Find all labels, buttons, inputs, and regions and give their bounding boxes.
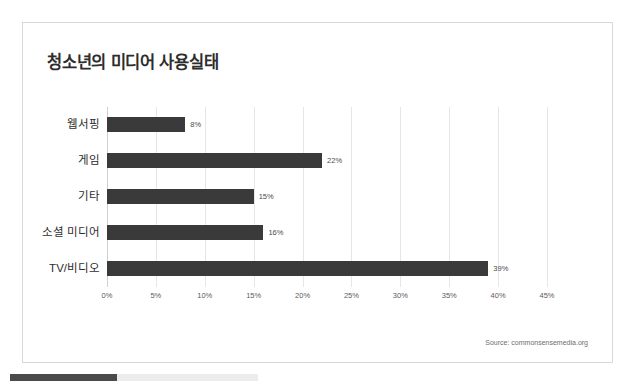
x-axis-tick-label: 5% [150, 291, 161, 300]
category-label: TV/비디오 [49, 261, 100, 276]
bar-value-label: 39% [493, 262, 508, 275]
x-axis-tick-label: 25% [344, 291, 359, 300]
chart-bar-row: 웹서핑8% [107, 107, 547, 143]
x-axis-tick-label: 40% [491, 291, 506, 300]
bar-value-label: 16% [268, 226, 283, 239]
x-axis-tick-label: 35% [442, 291, 457, 300]
x-axis-tick-label: 0% [102, 291, 113, 300]
category-label: 게임 [78, 153, 100, 168]
chart-plot-area: 웹서핑8%게임22%기타15%소셜 미디어16%TV/비디오39% [107, 107, 547, 287]
chart-bar[interactable] [107, 117, 185, 132]
gridline [547, 107, 548, 287]
x-axis-tick-label: 10% [197, 291, 212, 300]
chart-bar-row: 게임22% [107, 143, 547, 179]
chart-bar[interactable] [107, 225, 263, 240]
chart-bar[interactable] [107, 261, 488, 276]
chart-bar[interactable] [107, 189, 254, 204]
chart-bar-row: TV/비디오39% [107, 251, 547, 287]
x-axis-tick-label: 15% [246, 291, 261, 300]
horizontal-scrollbar[interactable] [10, 374, 258, 381]
horizontal-scrollbar-thumb[interactable] [10, 374, 117, 381]
chart-bar[interactable] [107, 153, 322, 168]
chart-bar-row: 기타15% [107, 179, 547, 215]
bar-value-label: 22% [327, 154, 342, 167]
x-axis-tick-label: 30% [393, 291, 408, 300]
bar-value-label: 15% [259, 190, 274, 203]
bar-value-label: 8% [190, 118, 201, 131]
x-axis-tick-labels: 0%5%10%15%20%25%30%35%40%45% [107, 291, 547, 307]
category-label: 소셜 미디어 [42, 225, 100, 240]
chart-bar-row: 소셜 미디어16% [107, 215, 547, 251]
x-axis-tick-label: 45% [539, 291, 554, 300]
source-note: Source: commonsensemedia.org [485, 339, 588, 346]
category-label: 기타 [78, 189, 100, 204]
page-title: 청소년의 미디어 사용실태 [47, 49, 219, 73]
chart-card: 청소년의 미디어 사용실태 웹서핑8%게임22%기타15%소셜 미디어16%TV… [22, 22, 613, 363]
category-label: 웹서핑 [67, 117, 100, 132]
x-axis-tick-label: 20% [295, 291, 310, 300]
